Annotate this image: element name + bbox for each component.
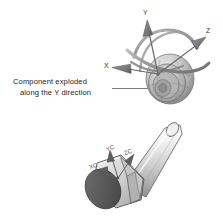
component-triad-origin[interactable] bbox=[117, 177, 120, 180]
annotation-callout: Component exploded along the Y direction bbox=[13, 77, 91, 98]
annotation-line-2: along the Y direction bbox=[13, 88, 91, 99]
annotation-line-1: Component exploded bbox=[13, 77, 91, 88]
triad-origin[interactable] bbox=[156, 72, 160, 76]
z-axis-label: Z bbox=[206, 27, 210, 34]
illustration-canvas: Component exploded along the Y direction… bbox=[0, 0, 223, 217]
figure-svg bbox=[0, 0, 223, 217]
exploded-assembly-body bbox=[146, 54, 194, 104]
x-axis-label: X bbox=[104, 62, 109, 69]
y-axis-label: Y bbox=[143, 9, 148, 16]
